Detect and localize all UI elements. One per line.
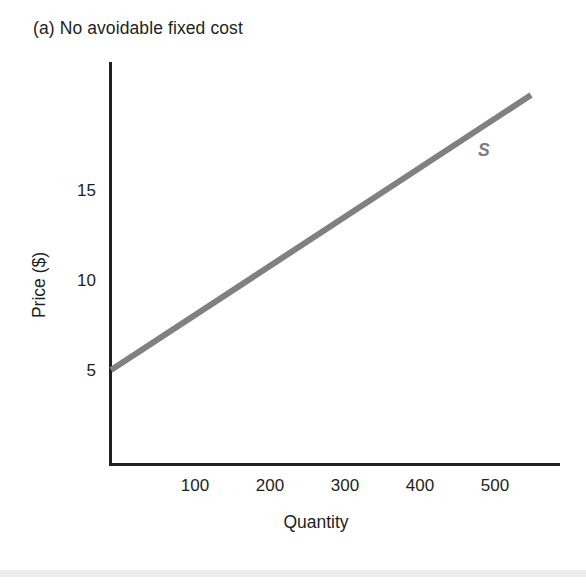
y-axis-title: Price ($) [29, 205, 50, 365]
x-tick-label-200: 200 [240, 477, 300, 494]
x-tick-label-400: 400 [390, 477, 450, 494]
figure-panel: (a) No avoidable fixed cost Price ($) Qu… [0, 0, 586, 583]
x-tick-label-500: 500 [465, 477, 525, 494]
x-tick-label-100: 100 [165, 477, 225, 494]
x-axis-title: Quantity [236, 512, 396, 533]
bottom-divider-band [0, 570, 586, 577]
supply-curve-label: S [478, 140, 490, 161]
chart-plot-area: Price ($) Quantity 15 10 5 100 200 300 4… [0, 0, 586, 583]
y-tick-label-15: 15 [48, 182, 96, 199]
supply-curve-line [111, 95, 531, 370]
chart-svg [0, 0, 586, 583]
y-tick-label-10: 10 [48, 272, 96, 289]
y-tick-label-5: 5 [48, 362, 96, 379]
x-tick-label-300: 300 [315, 477, 375, 494]
